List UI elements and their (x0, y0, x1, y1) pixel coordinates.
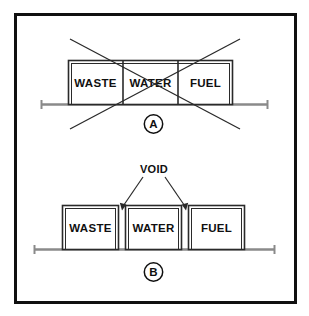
tank-arrangement-diagram: WASTE WATER FUEL A (0, 0, 309, 316)
panel-a-tank-label-fuel: FUEL (190, 77, 221, 89)
panel-a-tank-label-waste: WASTE (74, 77, 116, 89)
figure-root: WASTE WATER FUEL A (0, 0, 309, 316)
panel-b-letter-text: B (149, 266, 157, 278)
panel-b-letter-badge: B (144, 263, 162, 281)
panel-b-void-label: VOID (140, 163, 168, 175)
panel-b-tank-label-fuel: FUEL (201, 222, 232, 234)
panel-b-tank-label-waste: WASTE (69, 222, 111, 234)
panel-b-tank-label-water: WATER (132, 222, 175, 234)
panel-a-letter-text: A (149, 118, 157, 130)
panel-a-letter-badge: A (144, 115, 162, 133)
